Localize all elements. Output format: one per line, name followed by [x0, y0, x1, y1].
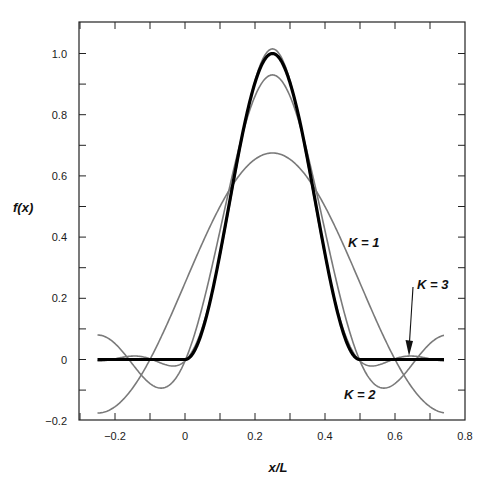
- y-tick-label: 0.8: [52, 109, 67, 121]
- annotation-k2: K = 2: [344, 387, 376, 402]
- x-tick-label: 0.8: [457, 430, 472, 442]
- arrowhead-icon: [406, 340, 414, 356]
- x-tick-label: −0.2: [104, 430, 126, 442]
- curves: [98, 49, 445, 413]
- x-tick-label: 0.6: [387, 430, 402, 442]
- curve-exact: [98, 54, 445, 360]
- x-axis-label: x/L: [268, 460, 288, 475]
- x-tick-label: 0.4: [317, 430, 332, 442]
- y-tick-label: 0.2: [52, 292, 67, 304]
- annotation-k1: K = 1: [348, 235, 379, 250]
- chart: −0.200.20.40.60.8−0.200.20.40.60.81.0 f(…: [0, 0, 487, 482]
- x-tick-label: 0.2: [247, 430, 262, 442]
- y-tick-label: −0.2: [45, 415, 67, 427]
- y-axis-label: f(x): [13, 200, 33, 215]
- y-tick-label: 0.4: [52, 231, 67, 243]
- k3-arrow: [406, 287, 414, 356]
- curve-k2: [98, 75, 445, 388]
- y-tick-label: 0: [61, 354, 67, 366]
- y-tick-label: 0.6: [52, 170, 67, 182]
- annotation-k3: K = 3: [417, 277, 449, 292]
- y-tick-label: 1.0: [52, 48, 67, 60]
- curve-k3: [98, 49, 445, 366]
- x-tick-label: 0: [182, 430, 188, 442]
- curve-k1: [98, 153, 445, 413]
